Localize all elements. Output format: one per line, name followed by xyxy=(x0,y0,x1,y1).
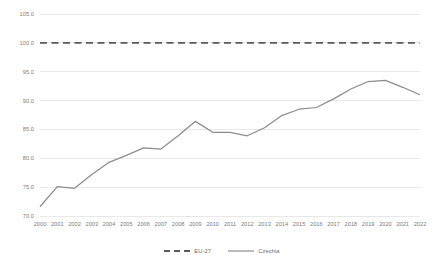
y-axis-tick-label: 80.0 xyxy=(0,155,34,161)
y-axis-tick-label: 100.0 xyxy=(0,40,34,46)
y-axis-tick-label: 105.0 xyxy=(0,11,34,17)
legend-swatch-dashed-line-icon xyxy=(164,248,190,254)
y-axis: 105.0100.095.090.085.080.075.070.0 xyxy=(0,0,38,230)
plot-area xyxy=(40,14,420,216)
line-chart: 105.0100.095.090.085.080.075.070.0 20002… xyxy=(0,0,444,264)
series-layer xyxy=(40,14,420,216)
chart-legend: EU-27Czechia xyxy=(0,243,444,259)
legend-label: EU-27 xyxy=(194,248,211,254)
series-line-czechia xyxy=(40,80,420,206)
x-axis: 2000200120022003200420052006200720082009… xyxy=(40,221,420,233)
legend-label: Czechia xyxy=(258,248,280,254)
y-axis-tick-label: 75.0 xyxy=(0,184,34,190)
y-axis-tick-label: 85.0 xyxy=(0,126,34,132)
y-axis-tick-label: 90.0 xyxy=(0,98,34,104)
legend-swatch-solid-line-icon xyxy=(228,248,254,254)
x-axis-tick-label: 2022 xyxy=(409,221,431,228)
y-axis-tick-label: 95.0 xyxy=(0,69,34,75)
legend-item-eu-27[interactable]: EU-27 xyxy=(164,248,211,254)
legend-item-czechia[interactable]: Czechia xyxy=(228,248,280,254)
y-axis-tick-label: 70.0 xyxy=(0,213,34,219)
